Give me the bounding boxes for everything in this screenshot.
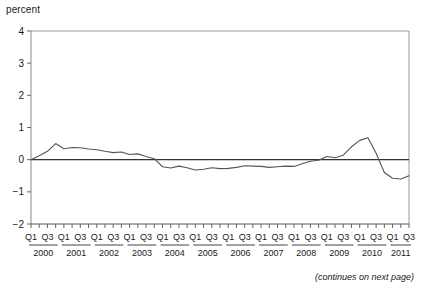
svg-text:Q1: Q1 — [91, 232, 103, 242]
svg-text:Q3: Q3 — [272, 232, 284, 242]
line-chart-plot: −2−101234 Q1Q3Q1Q3Q1Q3Q1Q3Q1Q3Q1Q3Q1Q3Q1… — [0, 0, 422, 284]
svg-text:Q1: Q1 — [25, 232, 37, 242]
tick-marks-group — [27, 31, 409, 228]
svg-text:Q3: Q3 — [41, 232, 53, 242]
year-labels-group: 2000200120022003200420052006200720082009… — [29, 245, 411, 258]
figure-container: percent −2−101234 Q1Q3Q1Q3Q1Q3Q1Q3Q1Q3Q1… — [0, 0, 422, 284]
svg-text:Q1: Q1 — [189, 232, 201, 242]
svg-text:2001: 2001 — [66, 248, 86, 258]
figure-caption: (continues on next page) — [315, 272, 414, 282]
svg-text:2009: 2009 — [329, 248, 349, 258]
y-tick-labels-group: −2−101234 — [13, 26, 25, 230]
svg-text:2002: 2002 — [99, 248, 119, 258]
svg-text:Q1: Q1 — [354, 232, 366, 242]
svg-text:2008: 2008 — [296, 248, 316, 258]
svg-text:2004: 2004 — [165, 248, 185, 258]
svg-text:Q3: Q3 — [206, 232, 218, 242]
svg-text:Q1: Q1 — [58, 232, 70, 242]
svg-text:−2: −2 — [13, 219, 25, 230]
svg-text:Q1: Q1 — [124, 232, 136, 242]
svg-text:Q3: Q3 — [107, 232, 119, 242]
svg-text:2007: 2007 — [263, 248, 283, 258]
svg-text:Q1: Q1 — [387, 232, 399, 242]
svg-text:1: 1 — [18, 122, 24, 133]
svg-text:Q3: Q3 — [140, 232, 152, 242]
svg-text:4: 4 — [18, 26, 24, 37]
svg-text:2000: 2000 — [33, 248, 53, 258]
svg-text:2010: 2010 — [362, 248, 382, 258]
svg-text:2: 2 — [18, 90, 24, 101]
svg-text:Q3: Q3 — [370, 232, 382, 242]
svg-text:Q3: Q3 — [173, 232, 185, 242]
axes-group — [31, 31, 409, 224]
svg-text:Q1: Q1 — [222, 232, 234, 242]
svg-text:2003: 2003 — [132, 248, 152, 258]
svg-text:0: 0 — [18, 154, 24, 165]
svg-text:Q1: Q1 — [156, 232, 168, 242]
svg-text:Q1: Q1 — [288, 232, 300, 242]
svg-text:Q3: Q3 — [337, 232, 349, 242]
svg-text:2005: 2005 — [198, 248, 218, 258]
svg-text:3: 3 — [18, 58, 24, 69]
svg-text:Q3: Q3 — [239, 232, 251, 242]
svg-text:Q1: Q1 — [255, 232, 267, 242]
x-tick-labels-group: Q1Q3Q1Q3Q1Q3Q1Q3Q1Q3Q1Q3Q1Q3Q1Q3Q1Q3Q1Q3… — [25, 232, 415, 242]
data-series-group — [31, 138, 409, 179]
svg-text:Q3: Q3 — [304, 232, 316, 242]
svg-text:Q3: Q3 — [74, 232, 86, 242]
svg-text:Q1: Q1 — [321, 232, 333, 242]
svg-text:−1: −1 — [13, 186, 25, 197]
svg-text:2006: 2006 — [231, 248, 251, 258]
svg-text:2011: 2011 — [391, 248, 410, 258]
svg-text:Q3: Q3 — [403, 232, 415, 242]
